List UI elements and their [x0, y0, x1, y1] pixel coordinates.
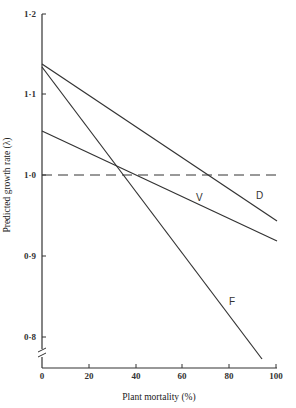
y-tick-label: 0·8 [24, 332, 37, 342]
series-label-f: F [229, 296, 235, 307]
x-tick-label: 0 [40, 371, 45, 381]
y-tick-label: 1·2 [24, 9, 37, 19]
series-line-v [42, 131, 277, 241]
y-axis-title: Predicted growth rate (λ) [2, 137, 13, 232]
axis-break-icon [38, 348, 46, 357]
x-tick-label: 80 [225, 371, 235, 381]
series-line-d [42, 64, 277, 221]
y-tick-label: 1·1 [24, 89, 37, 99]
x-tick-label: 100 [269, 371, 283, 381]
x-tick-label: 60 [178, 371, 188, 381]
y-tick-label: 0·9 [24, 251, 37, 261]
x-tick-label: 40 [132, 371, 142, 381]
chart: 1·2 1·1 1·0 0·9 0·8 0 20 40 60 80 100 Pl… [0, 0, 296, 408]
x-axis-title: Plant mortality (%) [122, 392, 195, 403]
series-label-d: D [256, 190, 263, 201]
x-tick-label: 20 [85, 371, 95, 381]
series-label-v: V [196, 192, 203, 203]
series-line-f [42, 67, 262, 359]
y-tick-label: 1·0 [24, 170, 37, 180]
